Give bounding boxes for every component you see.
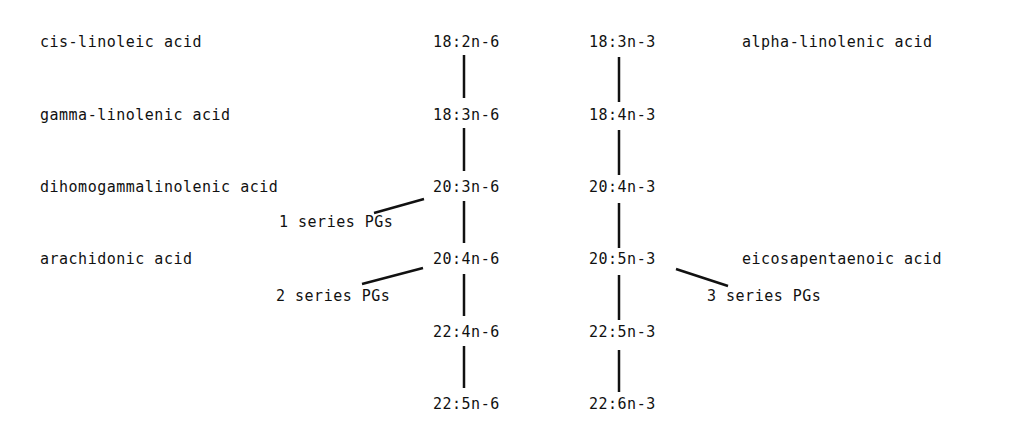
n3-node: 18:3n-3 <box>589 33 656 51</box>
name-arachidonic-acid: arachidonic acid <box>40 250 193 268</box>
n6-node: 20:3n-6 <box>433 178 500 196</box>
n3-node: 20:4n-3 <box>589 178 656 196</box>
connector-lines <box>0 0 1024 437</box>
n3-node: 22:5n-3 <box>589 323 656 341</box>
pg-series-1-label: 1 series PGs <box>279 213 393 231</box>
name-cis-linoleic-acid: cis-linoleic acid <box>40 33 202 51</box>
name-dihomogammalinolenic-acid: dihomogammalinolenic acid <box>40 178 278 196</box>
name-gamma-linolenic-acid: gamma-linolenic acid <box>40 106 231 124</box>
n6-node: 22:5n-6 <box>433 395 500 413</box>
n3-node: 18:4n-3 <box>589 106 656 124</box>
n6-node: 22:4n-6 <box>433 323 500 341</box>
n6-node: 18:3n-6 <box>433 106 500 124</box>
n3-node: 20:5n-3 <box>589 250 656 268</box>
n3-node: 22:6n-3 <box>589 395 656 413</box>
name-alpha-linolenic-acid: alpha-linolenic acid <box>742 33 933 51</box>
pg-series-2-label: 2 series PGs <box>276 287 390 305</box>
name-eicosapentaenoic-acid: eicosapentaenoic acid <box>742 250 942 268</box>
pg-series-3-label: 3 series PGs <box>707 287 821 305</box>
n6-node: 18:2n-6 <box>433 33 500 51</box>
n6-node: 20:4n-6 <box>433 250 500 268</box>
